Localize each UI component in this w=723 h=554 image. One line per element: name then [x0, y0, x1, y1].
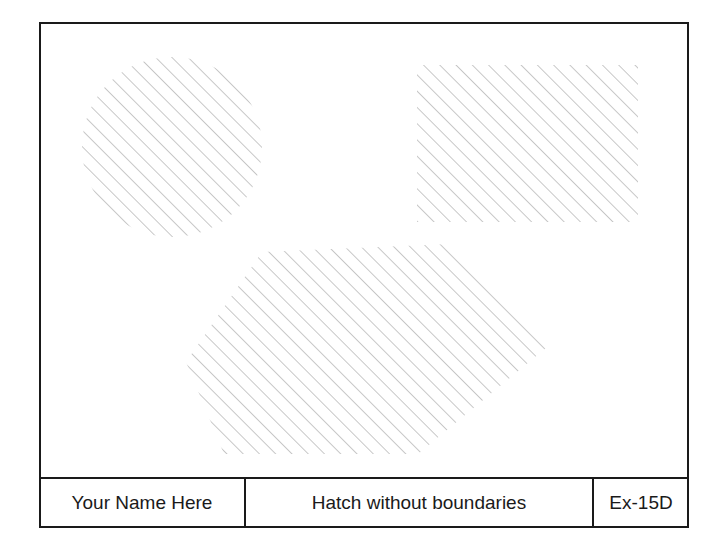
exercise-id-cell: Ex-15D [593, 478, 689, 527]
drawing-canvas [0, 0, 723, 554]
author-name-cell: Your Name Here [39, 478, 245, 527]
hatched-hexagon [186, 244, 546, 454]
hatched-rectangle [417, 65, 638, 222]
title-block: Your Name Here Hatch without boundaries … [39, 478, 689, 527]
hatched-circle [82, 57, 262, 237]
drawing-title-cell: Hatch without boundaries [245, 478, 593, 527]
